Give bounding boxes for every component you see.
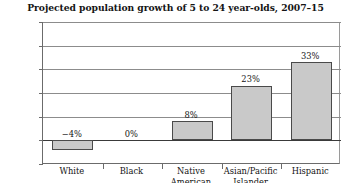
chart-title: Projected population growth of 5 to 24 y… bbox=[0, 2, 351, 13]
category-label-line: Hispanic bbox=[274, 166, 346, 177]
gridline bbox=[43, 46, 341, 47]
bar-chart: Projected population growth of 5 to 24 y… bbox=[0, 0, 351, 183]
bar bbox=[231, 86, 272, 140]
y-tick-mark bbox=[39, 22, 44, 23]
gridline bbox=[43, 22, 341, 23]
bar-value-label: 8% bbox=[161, 110, 221, 120]
bar-value-label: 0% bbox=[102, 129, 162, 139]
bar-value-label: 33% bbox=[280, 51, 340, 61]
y-tick-mark bbox=[39, 93, 44, 94]
y-tick-mark bbox=[39, 46, 44, 47]
y-tick-mark bbox=[39, 117, 44, 118]
y-tick-mark bbox=[39, 140, 44, 141]
category-label: Hispanic bbox=[274, 166, 346, 177]
category-label-line: Islander bbox=[215, 177, 287, 184]
plot-area bbox=[42, 22, 340, 164]
bar bbox=[52, 140, 93, 149]
y-tick-mark bbox=[39, 164, 44, 165]
bar-value-label: −4% bbox=[42, 129, 102, 139]
bar-value-label: 23% bbox=[221, 74, 281, 84]
bar bbox=[291, 62, 332, 140]
y-tick-mark bbox=[39, 69, 44, 70]
bar bbox=[172, 121, 213, 140]
